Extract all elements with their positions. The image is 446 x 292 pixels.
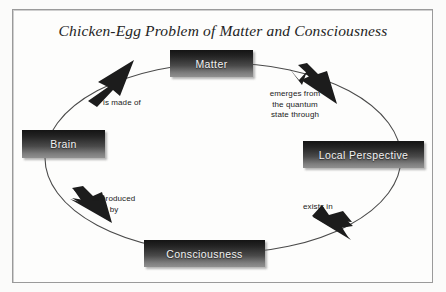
edge-label-brain-to-matter: is made of [103, 98, 141, 109]
edge-label-local-perspective-to-consciousness: exists in [303, 202, 333, 213]
node-matter-label: Matter [195, 58, 227, 70]
node-brain[interactable]: Brain [22, 130, 105, 158]
edge-label-consciousness-to-brain: is produced by [90, 194, 138, 215]
node-local-perspective[interactable]: Local Perspective [303, 141, 424, 168]
diagram-canvas: Chicken-Egg Problem of Matter and Consci… [0, 0, 446, 292]
edge-label-matter-to-local-perspective: emerges from the quantum state through [258, 89, 332, 121]
node-brain-label: Brain [50, 138, 77, 150]
node-consciousness-label: Consciousness [166, 248, 242, 260]
node-matter[interactable]: Matter [170, 50, 253, 77]
node-consciousness[interactable]: Consciousness [144, 240, 265, 267]
node-local-perspective-label: Local Perspective [319, 149, 409, 161]
